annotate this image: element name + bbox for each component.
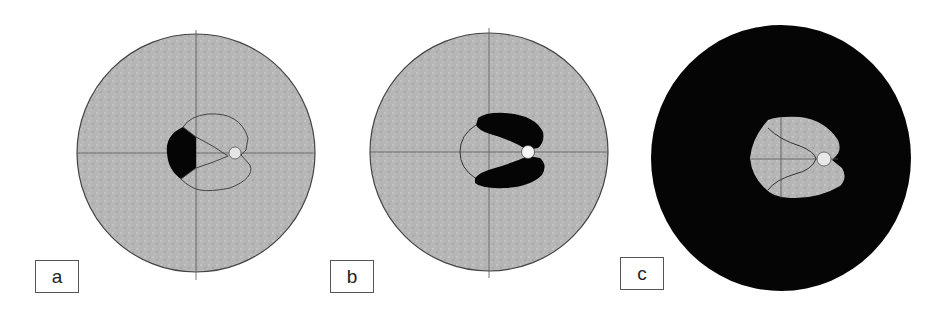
blind-spot-marker bbox=[522, 146, 535, 159]
panel-label-text: c bbox=[637, 263, 647, 285]
figure-canvas bbox=[0, 0, 943, 313]
panel-b bbox=[370, 28, 608, 278]
blind-spot-marker bbox=[817, 152, 831, 166]
panel-label-text: b bbox=[347, 266, 358, 288]
panel-c bbox=[651, 25, 911, 291]
panel-label-text: a bbox=[52, 266, 63, 288]
blind-spot-marker bbox=[229, 147, 241, 159]
panel-a bbox=[77, 30, 315, 280]
panel-label-b: b bbox=[330, 260, 374, 293]
panel-label-c: c bbox=[620, 257, 664, 290]
panel-label-a: a bbox=[35, 260, 79, 293]
